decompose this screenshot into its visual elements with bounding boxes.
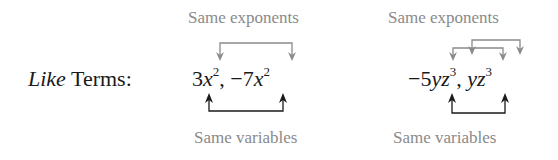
exponent-bracket-2 — [449, 40, 524, 61]
variable-bracket-2 — [448, 93, 509, 113]
bracket-arrows — [0, 0, 558, 160]
variable-bracket-1 — [205, 93, 287, 111]
exponent-bracket-1 — [216, 43, 296, 61]
